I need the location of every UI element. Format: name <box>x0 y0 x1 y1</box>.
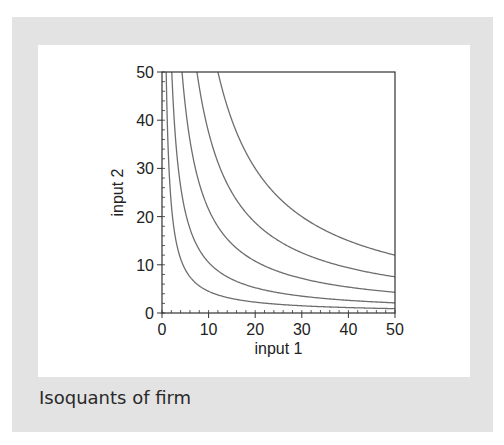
y-axis-label: input 2 <box>109 168 126 216</box>
y-tick-label: 30 <box>136 160 154 177</box>
y-tick-label: 50 <box>136 64 154 81</box>
y-tick-label: 10 <box>136 257 154 274</box>
isoquant-curve-5 <box>218 72 395 255</box>
isoquant-curve-1 <box>166 72 395 309</box>
isoquant-curve-2 <box>172 72 395 303</box>
isoquant-chart: 0102030405001020304050input 1input 2 <box>0 0 504 445</box>
y-tick-label: 40 <box>136 112 154 129</box>
x-tick-label: 20 <box>246 321 264 338</box>
x-tick-label: 30 <box>293 321 311 338</box>
x-tick-label: 40 <box>340 321 358 338</box>
plot-frame <box>162 72 395 313</box>
x-tick-label: 0 <box>158 321 167 338</box>
isoquant-curve-3 <box>182 72 395 292</box>
x-tick-label: 10 <box>200 321 218 338</box>
y-tick-label: 0 <box>145 305 154 322</box>
y-tick-label: 20 <box>136 209 154 226</box>
x-tick-label: 50 <box>386 321 404 338</box>
x-axis-label: input 1 <box>254 340 302 357</box>
